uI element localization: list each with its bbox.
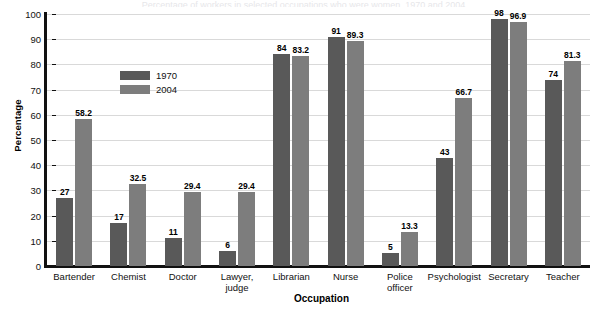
x-tick-label: Librarian [264, 271, 318, 293]
y-tick-label: 50 [15, 135, 41, 146]
bar-1970[interactable]: 6 [219, 251, 236, 266]
bar-group: 9896.9 [481, 14, 535, 266]
bar-2004[interactable]: 29.4 [184, 192, 201, 266]
y-tick-label: 90 [15, 34, 41, 45]
bar-value-label: 29.4 [184, 181, 201, 191]
legend-swatch-icon-2004 [120, 85, 150, 94]
bar-value-label: 83.2 [293, 45, 310, 55]
bar-1970[interactable]: 98 [491, 19, 508, 266]
bar-value-label: 6 [225, 240, 230, 250]
bar-group: 513.3 [373, 14, 427, 266]
bar-value-label: 58.2 [75, 108, 92, 118]
legend-label-1970: 1970 [156, 70, 177, 81]
bar-2004[interactable]: 66.7 [455, 98, 472, 266]
bar-2004[interactable]: 13.3 [401, 232, 418, 266]
bar-chart: Percentage of workers in selected occupa… [0, 0, 607, 313]
bar-1970[interactable]: 11 [165, 238, 182, 266]
bar-value-label: 11 [169, 227, 178, 237]
y-tick-label: 100 [15, 9, 41, 20]
bar-value-label: 96.9 [510, 11, 527, 21]
bar-1970[interactable]: 43 [436, 158, 453, 266]
y-axis-tick-labels: 0102030405060708090100 [11, 14, 41, 266]
x-tick-label: Chemist [101, 271, 155, 293]
legend-item-2004: 2004 [120, 84, 177, 95]
legend-label-2004: 2004 [156, 84, 177, 95]
clipped-chart-title: Percentage of workers in selected occupa… [0, 0, 607, 7]
x-tick-label: Psychologist [427, 271, 481, 293]
y-tick-label: 60 [15, 109, 41, 120]
bar-value-label: 98 [494, 8, 503, 18]
bar-2004[interactable]: 58.2 [75, 119, 92, 266]
bar-2004[interactable]: 32.5 [129, 184, 146, 266]
bar-value-label: 81.3 [564, 50, 581, 60]
bar-value-label: 89.3 [347, 30, 364, 40]
bar-1970[interactable]: 17 [110, 223, 127, 266]
bar-value-label: 27 [60, 187, 69, 197]
x-tick-label: Doctor [156, 271, 210, 293]
x-tick-label: Lawyer,judge [210, 271, 264, 293]
y-tick-mark [52, 266, 56, 267]
bar-group: 7481.3 [536, 14, 590, 266]
bar-2004[interactable]: 81.3 [564, 61, 581, 266]
y-tick-label: 0 [15, 261, 41, 272]
bar-groups: 2758.21732.51129.4629.48483.29189.3513.3… [47, 14, 590, 266]
y-tick-label: 20 [15, 210, 41, 221]
bar-1970[interactable]: 27 [56, 198, 73, 266]
legend-item-1970: 1970 [120, 70, 177, 81]
y-tick-label: 30 [15, 185, 41, 196]
bar-2004[interactable]: 29.4 [238, 192, 255, 266]
y-tick-label: 80 [15, 59, 41, 70]
bar-group: 9189.3 [318, 14, 372, 266]
bar-value-label: 91 [331, 26, 340, 36]
x-tick-label: Bartender [47, 271, 101, 293]
legend-swatch-icon-1970 [120, 71, 150, 80]
x-tick-label: Nurse [318, 271, 372, 293]
bar-group: 1732.5 [101, 14, 155, 266]
bar-value-label: 5 [388, 242, 393, 252]
x-tick-label: Teacher [536, 271, 590, 293]
bar-group: 4366.7 [427, 14, 481, 266]
bar-value-label: 13.3 [401, 221, 418, 231]
y-tick-label: 10 [15, 235, 41, 246]
bar-1970[interactable]: 74 [545, 80, 562, 266]
bar-value-label: 43 [440, 147, 449, 157]
x-tick-label: Policeofficer [373, 271, 427, 293]
bar-group: 1129.4 [156, 14, 210, 266]
bar-value-label: 74 [549, 69, 558, 79]
bar-2004[interactable]: 96.9 [510, 22, 527, 266]
x-axis-title: Occupation [0, 293, 607, 304]
bar-value-label: 66.7 [455, 87, 472, 97]
bar-value-label: 84 [277, 43, 286, 53]
x-axis-tick-labels: BartenderChemistDoctorLawyer,judgeLibrar… [47, 271, 590, 293]
x-tick-label: Secretary [481, 271, 535, 293]
y-tick-label: 70 [15, 84, 41, 95]
bar-1970[interactable]: 84 [273, 54, 290, 266]
bar-value-label: 29.4 [238, 181, 255, 191]
bar-value-label: 17 [114, 212, 123, 222]
y-tick-label: 40 [15, 160, 41, 171]
chart-legend: 1970 2004 [120, 70, 177, 95]
bar-group: 2758.2 [47, 14, 101, 266]
bar-value-label: 32.5 [130, 173, 147, 183]
bar-1970[interactable]: 91 [328, 37, 345, 266]
bar-group: 629.4 [210, 14, 264, 266]
bar-1970[interactable]: 5 [382, 253, 399, 266]
bar-2004[interactable]: 83.2 [292, 56, 309, 266]
bar-group: 8483.2 [264, 14, 318, 266]
bar-2004[interactable]: 89.3 [347, 41, 364, 266]
